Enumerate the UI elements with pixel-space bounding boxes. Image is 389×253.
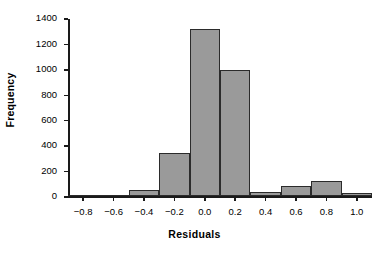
x-axis-tick-label: −0.4 [135,205,154,218]
y-axis-tick-label: 1000 [36,62,57,75]
y-axis-title-text: Frequency [4,73,16,128]
histogram-bar [220,70,250,196]
histogram-bar [159,153,189,196]
x-axis-tick [234,197,236,201]
histogram-bar [98,195,128,196]
x-axis-tick [295,197,297,201]
y-axis-tick: 0 [64,196,68,198]
x-axis-tick [326,197,328,201]
y-axis-tick-label: 600 [41,113,57,126]
x-axis-tick-label: 0.4 [259,205,272,218]
x-axis-tick [265,197,267,201]
histogram-bar [250,192,280,196]
y-axis-tick: 1000 [64,69,68,71]
histogram-bar [190,29,220,196]
y-axis-tick: 400 [64,145,68,147]
x-axis-tick [204,197,206,201]
histogram-bar [311,181,341,196]
x-axis-tick-label: −0.8 [74,205,93,218]
x-axis-title: Residuals [0,228,389,240]
y-axis-tick-label: 200 [41,164,57,177]
y-axis-tick: 600 [64,120,68,122]
y-axis-tick: 1400 [64,18,68,20]
x-axis-tick-label: −0.6 [104,205,123,218]
y-axis-tick: 200 [64,171,68,173]
x-axis-tick-label: −0.2 [165,205,184,218]
histogram-bar [281,186,311,196]
x-axis-tick-label: 0.8 [320,205,333,218]
plot-area: 0200400600800100012001400 −0.8−0.6−0.4−0… [68,19,372,197]
y-axis-tick-label: 800 [41,88,57,101]
x-axis-tick-label: 0.2 [229,205,242,218]
y-axis-tick-label: 1400 [36,11,57,24]
y-axis-tick-label: 0 [52,189,57,202]
histogram-bar [68,195,98,196]
x-axis-tick [174,197,176,201]
y-axis-tick-label: 1200 [36,37,57,50]
histogram-bar [129,190,159,196]
x-axis-tick [356,197,358,201]
histogram-chart: Frequency 0200400600800100012001400 −0.8… [0,0,389,253]
y-axis-tick: 800 [64,95,68,97]
x-axis-tick-label: 1.0 [350,205,363,218]
x-axis-tick [82,197,84,201]
x-axis-tick [113,197,115,201]
y-axis-tick: 1200 [64,44,68,46]
x-axis-tick-label: 0.0 [198,205,211,218]
y-axis-tick-label: 400 [41,138,57,151]
histogram-bar [342,193,372,196]
x-axis-tick-label: 0.6 [289,205,302,218]
y-axis-title: Frequency [0,0,20,200]
y-axis-line [68,19,70,197]
x-axis-tick [143,197,145,201]
